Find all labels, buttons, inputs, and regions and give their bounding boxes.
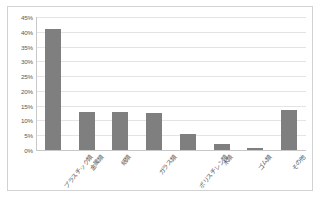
y-axis-tick-label: 40% [21, 28, 33, 35]
x-axis-label-slot: プラスチック類 [36, 150, 70, 200]
bar [180, 134, 196, 150]
x-axis-label-slot: その他 [272, 150, 306, 200]
y-axis-tick-label: 30% [21, 58, 33, 65]
x-axis-tick-label: 紙類 [119, 153, 133, 168]
bar-slot [205, 17, 239, 150]
bar [146, 113, 162, 150]
x-axis-label-slot: ガラス類 [137, 150, 171, 200]
y-axis: 0%5%10%15%20%25%30%35%40%45% [7, 17, 36, 150]
y-axis-tick-label: 15% [21, 102, 33, 109]
x-axis-label-slot: 金属類 [70, 150, 104, 200]
bar-slot [272, 17, 306, 150]
y-axis-tick-label: 20% [21, 87, 33, 94]
bar [79, 112, 95, 150]
y-axis-tick-label: 10% [21, 117, 33, 124]
x-axis-label-slot: 木類 [205, 150, 239, 200]
x-axis-tick-label: その他 [289, 153, 307, 172]
chart-container: 0%5%10%15%20%25%30%35%40%45% プラスチック類金属類紙… [0, 0, 324, 203]
x-axis-tick-label: ゴム類 [256, 153, 274, 172]
x-axis-label-slot: ゴム類 [239, 150, 273, 200]
x-axis-tick-label: 金属類 [87, 153, 105, 172]
x-axis-label-slot: 紙類 [104, 150, 138, 200]
bar-slot [137, 17, 171, 150]
bar-slot [239, 17, 273, 150]
y-axis-tick-label: 0% [24, 147, 33, 154]
y-axis-tick-label: 5% [24, 132, 33, 139]
x-axis-label-slot: ポリスチレン類 [171, 150, 205, 200]
bar-series [36, 17, 306, 150]
y-axis-tick-label: 25% [21, 73, 33, 80]
bar [281, 110, 297, 150]
y-axis-tick-label: 35% [21, 43, 33, 50]
bar [112, 112, 128, 150]
bar [45, 29, 61, 150]
y-axis-tick-label: 45% [21, 14, 33, 21]
x-axis-tick-label: 木類 [220, 153, 234, 168]
x-axis: プラスチック類金属類紙類ガラス類ポリスチレン類木類ゴム類その他 [36, 150, 306, 200]
bar-slot [36, 17, 70, 150]
bar-slot [104, 17, 138, 150]
bar-slot [171, 17, 205, 150]
bar-slot [70, 17, 104, 150]
